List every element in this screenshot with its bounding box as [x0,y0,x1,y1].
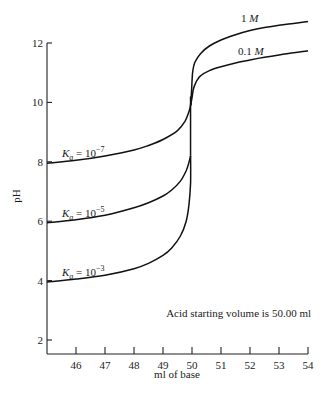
concentration-label: 0.1 M [238,45,265,57]
y-tick-label: 2 [38,334,44,346]
x-tick-label: 46 [71,359,83,371]
y-tick-label: 6 [38,215,44,227]
y-tick-label: 4 [38,275,44,287]
curve-0-1-m [191,51,308,106]
curve-labels: Ka = 10−7Ka = 10−5Ka = 10−31 M0.1 M [61,12,265,281]
x-axis-label: ml of base [154,368,200,380]
x-tick-label: 51 [216,359,227,371]
y-tick-label: 10 [32,96,44,108]
x-tick-label: 53 [274,359,286,371]
y-axis-label: pH [10,189,22,203]
y-tick-label: 8 [38,156,44,168]
x-tick-label: 54 [303,359,315,371]
y-tick-label: 12 [32,37,43,49]
x-tick-label: 48 [129,359,141,371]
axes: 24681012464748495051525354 [32,37,314,371]
titration-chart: 24681012464748495051525354 Ka = 10−7Ka =… [0,0,326,396]
x-tick-label: 47 [100,359,112,371]
concentration-label: 1 M [241,12,259,24]
x-tick-label: 52 [245,359,256,371]
curve-1-m [191,22,308,106]
annotation: Acid starting volume is 50.00 ml [166,307,311,319]
